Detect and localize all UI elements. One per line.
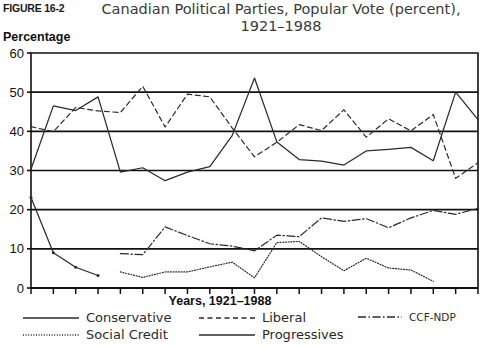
series-point-progressives [97, 274, 100, 277]
legend-label-social-credit: Social Credit [86, 327, 168, 342]
chart-title: Canadian Political Parties, Popular Vote… [86, 1, 476, 35]
figure-container: FIGURE 16-2 Canadian Political Parties, … [0, 0, 484, 347]
y-axis-ticks: 0102030405060 [10, 46, 31, 296]
legend-label-liberal: Liberal [262, 310, 306, 325]
y-tick-label: 10 [10, 241, 24, 256]
line-dashed-icon [198, 313, 256, 323]
line-solid-icon [198, 330, 256, 340]
legend-label-progressives: Progressives [262, 327, 344, 342]
series-line-social-credit [120, 241, 433, 281]
line-solid-icon [22, 313, 80, 323]
series-line-liberal [31, 86, 478, 178]
line-dotted-icon [22, 330, 80, 340]
chart-legend: Conservative Social Credit Liberal Progr… [0, 310, 484, 344]
y-tick-label: 60 [10, 46, 24, 61]
legend-item-ccf-ndp: CCF-NDP [357, 311, 456, 323]
series-point-progressives [52, 251, 55, 254]
y-tick-label: 30 [10, 163, 24, 178]
y-axis-label: Percentage [3, 30, 70, 44]
chart-title-line2: 1921–1988 [240, 18, 321, 34]
series-line-conservative [31, 78, 478, 181]
x-axis-label: Years, 1921–1988 [0, 294, 440, 308]
line-dashdot-icon [357, 312, 403, 322]
series-line-ccf-ndp [120, 208, 478, 255]
plot-area: 0102030405060 21252630354045495357586263… [0, 44, 484, 296]
legend-item-progressives: Progressives [198, 327, 344, 342]
legend-item-liberal: Liberal [198, 310, 306, 325]
legend-label-ccf-ndp: CCF-NDP [409, 311, 456, 323]
series-point-progressives [74, 266, 77, 269]
series-point-progressives [30, 196, 33, 199]
y-tick-label: 50 [10, 85, 24, 100]
gridlines [31, 92, 478, 249]
figure-number: FIGURE 16-2 [3, 2, 64, 14]
legend-item-conservative: Conservative [22, 310, 171, 325]
chart-svg: 0102030405060 21252630354045495357586263… [0, 44, 484, 296]
y-tick-label: 40 [10, 124, 24, 139]
y-tick-label: 20 [10, 202, 24, 217]
legend-label-conservative: Conservative [86, 310, 171, 325]
legend-item-social-credit: Social Credit [22, 327, 168, 342]
data-series-group [30, 78, 479, 281]
chart-title-line1: Canadian Political Parties, Popular Vote… [101, 1, 460, 17]
